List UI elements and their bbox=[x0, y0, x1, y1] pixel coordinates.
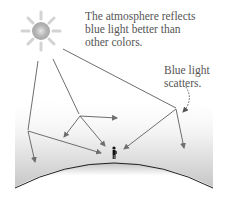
sun-icon bbox=[22, 12, 60, 50]
caption-line-1: The atmosphere reflects bbox=[85, 10, 225, 23]
scatter-label-line-2: scatters. bbox=[164, 77, 226, 90]
caption-text: The atmosphere reflects blue light bette… bbox=[85, 10, 225, 49]
sky-scattering-diagram: The atmosphere reflects blue light bette… bbox=[0, 0, 228, 216]
scatter-label: Blue light scatters. bbox=[164, 64, 226, 90]
caption-line-2: blue light better than bbox=[85, 23, 225, 36]
caption-line-3: other colors. bbox=[85, 36, 225, 49]
scatter-label-line-1: Blue light bbox=[164, 64, 226, 77]
